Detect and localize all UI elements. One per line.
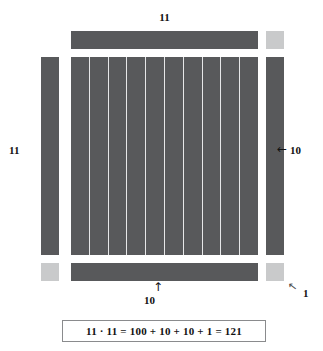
up-pointing-arrow-icon: ↑ [153,281,163,293]
grid-column [146,57,165,255]
area-model-figure: 11 11 ← 10 ↑ 10 ↖ 1 11 · 11 = 100 + 10 +… [0,0,323,351]
bottom-strip-label: 10 [144,295,155,306]
bottom-strip-block [71,263,258,281]
right-strip-label: 10 [290,145,301,156]
equation-text: 11 · 11 = 100 + 10 + 10 + 1 = 121 [86,325,242,337]
grid-column [203,57,222,255]
hundred-square-grid [71,57,258,255]
grid-column [90,57,109,255]
grid-column [165,57,184,255]
grid-column [240,57,258,255]
grid-column [109,57,128,255]
left-dimension-label: 11 [9,145,19,156]
top-right-unit-square [266,31,284,49]
grid-column [127,57,146,255]
top-strip-block [71,31,258,49]
equation-box: 11 · 11 = 100 + 10 + 10 + 1 = 121 [62,320,266,342]
grid-column [71,57,90,255]
top-dimension-label: 11 [0,12,323,23]
left-pointing-arrow-icon: ← [277,143,287,155]
grid-column [184,57,203,255]
bottom-left-unit-square [41,263,59,281]
bottom-right-unit-square [266,263,284,281]
diagonal-arrow-icon: ↖ [287,280,298,292]
unit-square-label: 1 [303,288,309,299]
grid-column [221,57,240,255]
left-strip-block [41,57,59,255]
right-strip-block [266,57,284,255]
